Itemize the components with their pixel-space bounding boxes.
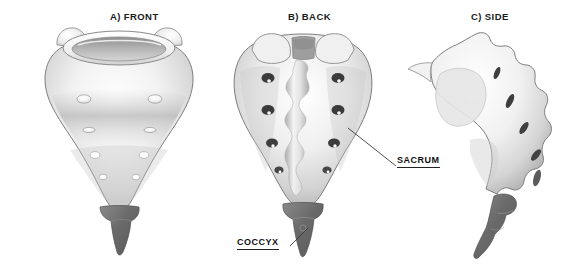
- back-foramen-right-4-highlight: [327, 171, 330, 174]
- front-foramen-third-left: [90, 152, 100, 159]
- front-foramen-second-right: [144, 127, 156, 132]
- back-right-articular-process: [316, 34, 354, 64]
- front-shading-band-lower: [70, 146, 168, 204]
- back-coccyx: [283, 203, 323, 257]
- back-foramen-left-4-highlight: [279, 171, 282, 174]
- back-foramen-left-2-highlight: [267, 111, 271, 115]
- front-foramen-third-right: [139, 152, 149, 159]
- front-foramen-upper-left: [77, 95, 91, 103]
- sacrum-coccyx-artwork: [0, 0, 587, 265]
- panel-title-side: C) SIDE: [471, 11, 509, 22]
- front-view-group: [45, 28, 193, 255]
- back-left-articular-process: [252, 34, 290, 64]
- panel-title-back: B) BACK: [288, 11, 331, 22]
- front-shading-band: [52, 89, 186, 150]
- side-view-group: [408, 33, 551, 259]
- back-foramen-left-1-highlight: [267, 79, 271, 83]
- side-coccyx: [474, 194, 517, 258]
- side-foramen-5: [531, 169, 542, 187]
- back-foramen-right-3-highlight: [333, 144, 336, 147]
- front-foramen-upper-right: [148, 95, 162, 103]
- back-foramen-left-3-highlight: [271, 144, 274, 147]
- back-foramen-right-2-highlight: [337, 111, 341, 115]
- back-foramen-right-1-highlight: [337, 79, 341, 83]
- back-notch-shadow: [293, 39, 314, 50]
- anatomy-illustration: A) FRONT B) BACK C) SIDE SACRUM COCCYX: [0, 0, 587, 265]
- callout-label-coccyx: COCCYX: [237, 237, 279, 250]
- front-foramen-second-left: [83, 127, 95, 132]
- front-coccyx: [100, 206, 139, 256]
- sacrum-leader-line: [348, 128, 396, 166]
- back-view-group: [234, 34, 372, 257]
- callout-label-sacrum: SACRUM: [397, 155, 440, 168]
- panel-title-front: A) FRONT: [110, 11, 159, 22]
- side-ala-flare: [408, 63, 432, 82]
- front-foramen-fourth-right: [132, 174, 140, 180]
- front-foramen-fourth-left: [99, 174, 107, 180]
